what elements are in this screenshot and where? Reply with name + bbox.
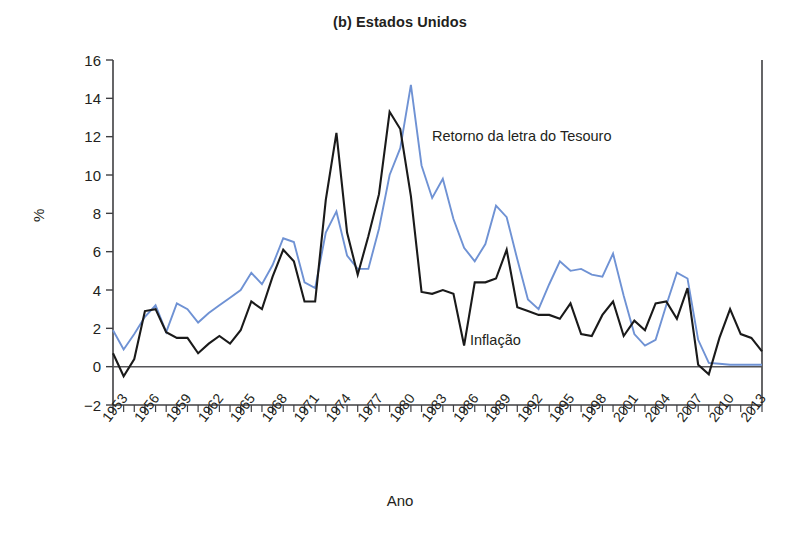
svg-text:8: 8: [93, 205, 101, 222]
x-axis-tick-labels: 1953195619591962196519681971197419771980…: [99, 390, 769, 425]
svg-text:10: 10: [84, 167, 101, 184]
svg-text:1965: 1965: [226, 390, 258, 425]
svg-text:12: 12: [84, 128, 101, 145]
chart-plot-area: −20246810121416 195319561959196219651968…: [0, 0, 800, 534]
y-axis-label: %: [30, 209, 47, 222]
svg-text:1992: 1992: [514, 390, 546, 425]
svg-text:2007: 2007: [673, 390, 705, 425]
svg-text:6: 6: [93, 243, 101, 260]
axis-ticks: [106, 60, 762, 414]
series-label-inflation: Inflação: [470, 332, 521, 348]
svg-text:1959: 1959: [163, 390, 195, 425]
x-axis-label: Ano: [0, 492, 800, 509]
axes: [113, 60, 762, 405]
svg-text:2004: 2004: [641, 390, 673, 425]
svg-text:0: 0: [93, 358, 101, 375]
svg-text:−2: −2: [84, 397, 101, 414]
svg-text:2001: 2001: [609, 390, 641, 425]
svg-text:1989: 1989: [482, 390, 514, 425]
svg-text:1974: 1974: [322, 390, 354, 425]
svg-text:1968: 1968: [258, 390, 290, 425]
svg-text:1983: 1983: [418, 390, 450, 425]
svg-text:1971: 1971: [290, 390, 322, 425]
chart-figure: (b) Estados Unidos −20246810121416 19531…: [0, 0, 800, 534]
svg-text:2: 2: [93, 320, 101, 337]
svg-text:16: 16: [84, 52, 101, 69]
svg-text:2010: 2010: [705, 390, 737, 425]
series-line-tbill: [113, 85, 762, 365]
svg-text:1956: 1956: [131, 390, 163, 425]
svg-text:14: 14: [84, 90, 101, 107]
svg-text:1998: 1998: [578, 390, 610, 425]
series-line-inflation: [113, 112, 762, 377]
series-label-tbill: Retorno da letra do Tesouro: [432, 128, 612, 144]
svg-text:1995: 1995: [546, 390, 578, 425]
svg-text:1980: 1980: [386, 390, 418, 425]
svg-text:1986: 1986: [450, 390, 482, 425]
svg-text:2013: 2013: [737, 390, 769, 425]
svg-text:1953: 1953: [99, 390, 131, 425]
y-axis-tick-labels: −20246810121416: [84, 52, 101, 414]
svg-text:4: 4: [93, 282, 101, 299]
svg-text:1977: 1977: [354, 390, 386, 425]
svg-text:1962: 1962: [195, 390, 227, 425]
